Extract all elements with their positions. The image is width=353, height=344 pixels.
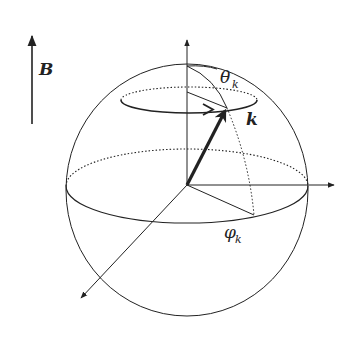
phi-subscript: k [235,233,242,246]
theta-subscript: k [232,78,239,91]
k-vector-arrow [187,111,225,185]
azimuth-projection [187,185,254,215]
latitude-circle-front [121,100,257,113]
diagonal-axis [81,185,187,298]
b-field-label: B [38,59,53,79]
theta-label: θ [220,67,230,87]
latitude-circle-arrow-icon [203,104,213,115]
k-vector-label: k [246,109,258,129]
equator-front [66,186,308,223]
sphere-diagram: B θ k k φ k [0,0,353,344]
